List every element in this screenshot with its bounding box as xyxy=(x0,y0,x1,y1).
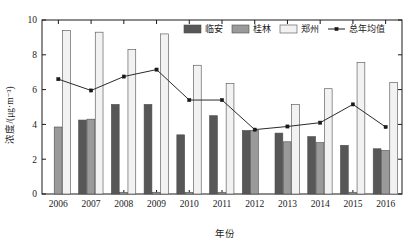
x-tick-label: 2009 xyxy=(147,199,166,209)
bar-临安-2014 xyxy=(308,137,316,194)
y-axis-title: 浓度/(μg·m⁻³) xyxy=(4,86,16,143)
line-series-layer xyxy=(57,68,387,131)
bar-桂林-2011 xyxy=(218,192,226,194)
bar-桂林-2007 xyxy=(87,119,95,194)
x-tick-label: 2014 xyxy=(311,199,330,209)
line-marker-2007 xyxy=(89,89,92,92)
bar-临安-2015 xyxy=(340,145,348,194)
x-tick-label: 2011 xyxy=(213,199,232,209)
bar-临安-2010 xyxy=(177,135,185,194)
bar-临安-2016 xyxy=(373,149,381,194)
bar-桂林-2010 xyxy=(185,192,193,194)
line-marker-2012 xyxy=(253,128,256,131)
bar-郑州-2013 xyxy=(292,104,300,194)
bar-临安-2011 xyxy=(210,116,218,194)
bar-桂林-2013 xyxy=(283,142,291,194)
y-tick-label: 10 xyxy=(28,15,38,25)
line-marker-2015 xyxy=(351,103,354,106)
bar-桂林-2012 xyxy=(251,130,259,194)
x-tick-label: 2010 xyxy=(180,199,199,209)
bar-郑州-2010 xyxy=(193,65,201,194)
legend-swatch-郑州 xyxy=(280,25,297,33)
bar-郑州-2009 xyxy=(161,34,169,194)
line-marker-2008 xyxy=(122,75,125,78)
bar-临安-2008 xyxy=(111,104,119,194)
y-tick-label: 6 xyxy=(32,85,37,95)
bar-郑州-2008 xyxy=(128,50,136,194)
legend-label-桂林: 桂林 xyxy=(253,23,271,34)
x-tick-label: 2008 xyxy=(114,199,133,209)
x-tick-label: 2016 xyxy=(376,199,395,209)
bar-临安-2013 xyxy=(275,133,283,194)
chart-legend: 临安桂林郑州总年均值 xyxy=(184,23,385,34)
legend-swatch-临安 xyxy=(184,25,201,33)
y-tick-label: 0 xyxy=(32,189,37,199)
bar-郑州-2016 xyxy=(390,83,398,194)
line-marker-2011 xyxy=(220,98,223,101)
legend-swatch-桂林 xyxy=(232,25,249,33)
bar-郑州-2015 xyxy=(357,63,365,194)
bar-临安-2012 xyxy=(242,130,250,194)
bar-郑州-2011 xyxy=(226,84,234,194)
bar-桂林-2015 xyxy=(349,192,357,194)
bar-郑州-2007 xyxy=(95,32,103,194)
legend-label-临安: 临安 xyxy=(205,23,223,34)
line-marker-2016 xyxy=(384,125,387,128)
bar-郑州-2014 xyxy=(324,89,332,194)
x-tick-label: 2007 xyxy=(82,199,101,209)
line-marker-2013 xyxy=(286,125,289,128)
line-marker-2006 xyxy=(57,78,60,81)
x-tick-label: 2012 xyxy=(245,199,264,209)
bar-桂林-2014 xyxy=(316,143,324,194)
y-tick-label: 8 xyxy=(32,50,37,60)
x-axis-title: 年份 xyxy=(215,228,235,239)
y-tick-label: 2 xyxy=(32,155,37,165)
bar-桂林-2009 xyxy=(152,192,160,194)
bar-郑州-2006 xyxy=(63,30,71,194)
bar-桂林-2006 xyxy=(54,127,62,194)
legend-label-郑州: 郑州 xyxy=(301,23,319,34)
bar-临安-2007 xyxy=(79,120,87,194)
legend-marker-总年均值 xyxy=(335,27,338,30)
line-marker-2010 xyxy=(188,98,191,101)
line-marker-2009 xyxy=(155,68,158,71)
bars-layer xyxy=(54,30,397,194)
legend-label-总年均值: 总年均值 xyxy=(349,23,385,34)
x-tick-label: 2013 xyxy=(278,199,297,209)
x-tick-label: 2006 xyxy=(49,199,68,209)
concentration-bar-line-chart: 0246810 20062007200820092010201120122013… xyxy=(0,0,410,242)
bar-桂林-2008 xyxy=(120,192,128,194)
bar-桂林-2016 xyxy=(381,151,389,195)
bar-临安-2009 xyxy=(144,104,152,194)
x-tick-label: 2015 xyxy=(343,199,362,209)
line-marker-2014 xyxy=(319,121,322,124)
y-tick-label: 4 xyxy=(32,120,37,130)
chart-figure: 0246810 20062007200820092010201120122013… xyxy=(0,0,410,242)
